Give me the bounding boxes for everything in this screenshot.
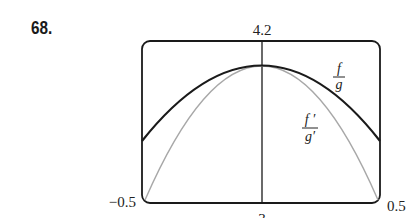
fg-denominator: g — [336, 77, 343, 92]
graph: 4.2 3 −0.5 0.5 f g f ′ g′ — [0, 0, 411, 218]
fpgp-denominator: g′ — [305, 129, 316, 144]
fpgp-numerator: f ′ — [305, 112, 316, 127]
x-min-label: −0.5 — [109, 194, 136, 210]
fg-numerator: f — [337, 61, 343, 76]
x-max-label: 0.5 — [387, 198, 406, 214]
y-min-label: 3 — [258, 211, 266, 218]
y-max-label: 4.2 — [253, 22, 272, 38]
